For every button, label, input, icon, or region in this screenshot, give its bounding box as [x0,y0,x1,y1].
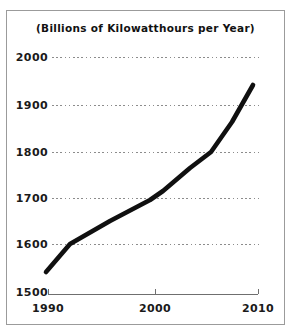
x-tick-label-2000: 2000 [125,302,185,315]
chart-figure: (Billions of Kilowatthours per Year) 200… [0,0,292,332]
y-tick-label-1800: 1800 [4,146,48,159]
gridlines [52,57,262,244]
y-tick-label-1700: 1700 [4,192,48,205]
line-chart-plot [0,0,292,332]
x-tick-label-1990: 1990 [18,302,78,315]
y-tick-label-1600: 1600 [4,238,48,251]
y-tick-label-2000: 2000 [4,51,48,64]
x-axis [48,289,258,294]
y-tick-label-1900: 1900 [4,99,48,112]
x-tick-label-2010: 2010 [228,302,288,315]
y-tick-label-1500: 1500 [4,286,48,299]
